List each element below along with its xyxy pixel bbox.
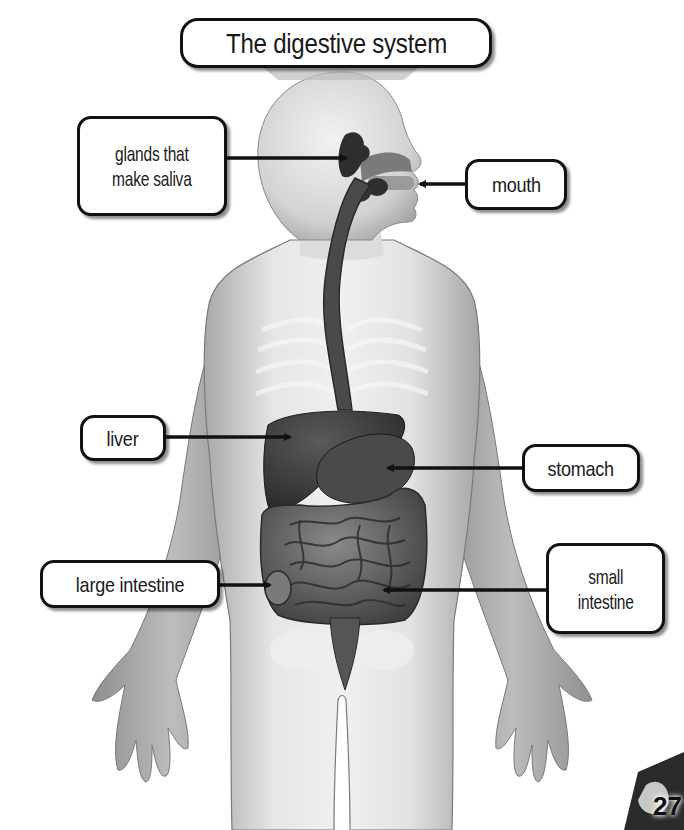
label-large-intestine: large intestine (40, 560, 220, 608)
label-line: make saliva (112, 166, 192, 191)
label-liver: liver (80, 415, 166, 461)
label-line: intestine (578, 589, 634, 614)
page-title: The digestive system (180, 18, 492, 68)
large-intestine-organ (261, 488, 427, 624)
label-stomach: stomach (522, 444, 640, 492)
label-glands-that-make-saliva: glands that make saliva (77, 116, 227, 216)
label-line: small (578, 564, 634, 589)
label-small-intestine: small intestine (546, 543, 665, 634)
label-mouth: mouth (465, 159, 567, 210)
label-line: glands that (112, 141, 192, 166)
page-number: 27 (653, 791, 682, 822)
